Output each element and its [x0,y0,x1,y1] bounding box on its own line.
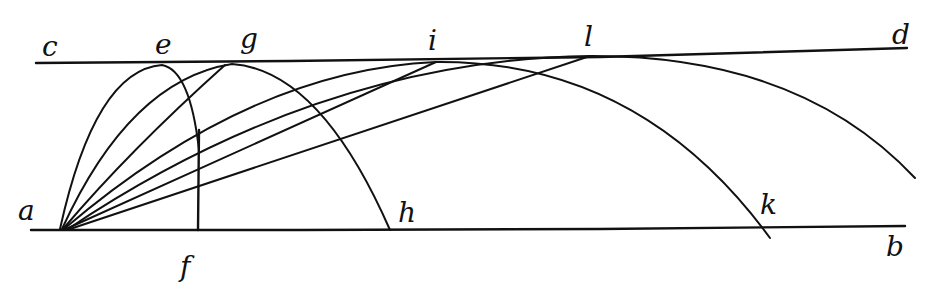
chord-a-i [66,62,436,229]
label-i: i [428,24,437,57]
label-b: b [886,230,904,263]
label-f: f [178,250,195,283]
trajectory-ae [60,65,199,229]
label-a: a [18,194,35,227]
chord-a-l [70,56,590,229]
label-h: h [398,196,416,229]
label-e: e [155,28,172,61]
label-c: c [42,30,58,63]
trajectory-ag [62,64,390,230]
bottom-line-ab [31,226,905,230]
label-l: l [584,20,593,53]
trajectory-diagram: c e g i l d a f h k b [0,0,940,303]
label-d: d [892,18,910,51]
trajectory-al [68,56,915,229]
label-k: k [760,188,777,221]
label-g: g [240,22,258,55]
